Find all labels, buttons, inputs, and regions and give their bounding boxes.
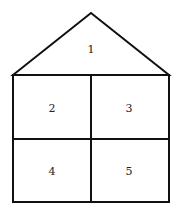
house-diagram: 1 2 3 4 5 [0, 0, 179, 214]
region-label-top-left: 2 [49, 102, 56, 115]
region-label-bottom-left: 4 [49, 165, 56, 178]
region-label-bottom-right: 5 [126, 165, 133, 178]
region-label-top-right: 3 [126, 102, 133, 115]
region-label-roof: 1 [88, 43, 95, 56]
